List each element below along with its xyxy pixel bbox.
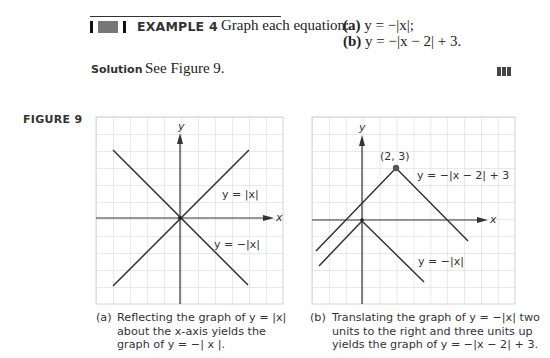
panel-a-caption-line-3: graph of y = −| x |. [117, 338, 286, 352]
panel-b-caption-line-3: yields the graph of y = −|x − 2| + 3. [332, 338, 540, 352]
panel-a-graph [96, 117, 283, 304]
panel-a-caption-line-2: about the x-axis yields the [117, 325, 286, 339]
panel-b-label-original: y = −|x| [418, 255, 464, 268]
panel-b-caption-line-1: Translating the graph of y = −|x| two [332, 311, 540, 325]
panel-a-origin-dot [178, 216, 182, 220]
panel-b-label-shifted: y = −|x − 2| + 3 [417, 169, 509, 182]
panel-b-caption-prefix: (b) [310, 311, 326, 325]
panel-b-caption-line-2: units to the right and three units up [332, 325, 540, 339]
panel-a-caption: Reflecting the graph of y = |x| about th… [117, 311, 286, 352]
panel-b-graph [312, 117, 515, 304]
panel-b-y-label: y [359, 121, 366, 134]
panel-a-y-label: y [178, 120, 185, 133]
panel-a-x-label: x [276, 211, 283, 224]
panel-b-x-label: x [490, 213, 497, 226]
panel-b-grid [312, 117, 515, 304]
panel-a-caption-prefix: (a) [96, 311, 112, 325]
panel-b-vertex-label: (2, 3) [380, 150, 410, 163]
panel-a-caption-line-1: Reflecting the graph of y = |x| [117, 311, 286, 325]
panel-b-vertex-dot [393, 165, 399, 171]
panel-a-label-abs-x: y = |x| [222, 188, 259, 201]
panel-b-caption: Translating the graph of y = −|x| two un… [332, 311, 540, 352]
panel-a-label-neg-abs-x: y = −|x| [214, 238, 260, 251]
panel-b-origin-dot [360, 218, 364, 222]
